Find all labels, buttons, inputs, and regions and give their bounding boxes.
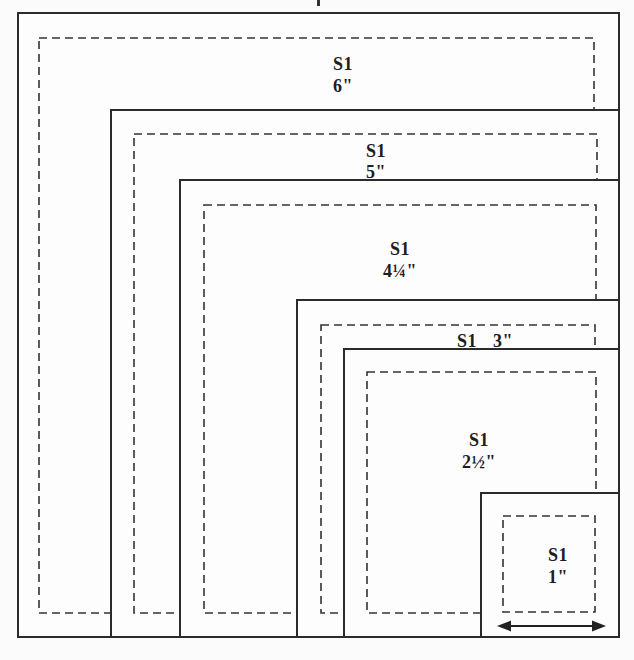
square-5-inch-label: S1 <box>366 141 386 161</box>
square-1-inch-size: 1" <box>548 567 568 587</box>
square-4.25-inch-size: 4¼" <box>383 261 417 281</box>
square-1-inch-cut-line <box>481 493 619 637</box>
template-diagram-page: S1 6" S1 5" S1 4¼" S13" S1 2½" <box>0 0 634 660</box>
square-4.25-inch-label: S1 <box>390 239 410 259</box>
cropped-character-fragment <box>317 0 320 6</box>
square-2.5-inch-size: 2½" <box>462 452 496 472</box>
square-6-inch-label: S1 <box>333 54 353 74</box>
square-2.5-inch-label: S1 <box>469 430 489 450</box>
square-1-inch-label: S1 <box>548 545 568 565</box>
nested-squares-diagram: S1 6" S1 5" S1 4¼" S13" S1 2½" <box>0 0 634 660</box>
square-1-inch: S1 1" <box>481 493 619 637</box>
square-6-inch-size: 6" <box>333 76 353 96</box>
